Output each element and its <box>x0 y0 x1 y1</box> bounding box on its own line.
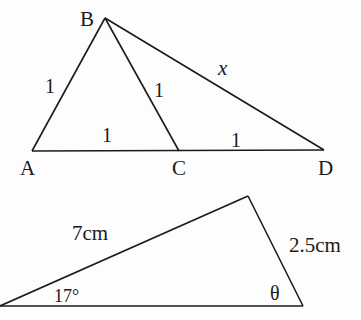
vertex-label-d: D <box>318 156 333 180</box>
diagram-canvas: B A C D 1 1 1 1 x 7cm 2.5cm 17° θ <box>0 0 361 320</box>
side-label-2.5cm: 2.5cm <box>289 233 341 257</box>
triangle-lower <box>0 196 303 306</box>
side-label-7cm: 7cm <box>72 221 108 245</box>
vertex-label-c: C <box>172 156 186 180</box>
side-label-ab: 1 <box>45 75 55 97</box>
triangle-abcd <box>32 18 324 151</box>
angle-label-theta: θ <box>270 282 280 304</box>
vertex-label-b: B <box>80 7 94 31</box>
side-label-bc: 1 <box>154 79 164 101</box>
side-label-cd: 1 <box>231 129 241 151</box>
segment-bc <box>105 18 179 151</box>
segment-bd <box>105 18 324 150</box>
angle-label-17: 17° <box>54 286 79 306</box>
segment-ab <box>32 18 105 151</box>
segment-ad <box>32 150 324 151</box>
side-label-bd: x <box>217 56 228 80</box>
side-hypotenuse <box>0 196 248 306</box>
vertex-label-a: A <box>20 156 36 180</box>
geometry-figure: B A C D 1 1 1 1 x 7cm 2.5cm 17° θ <box>0 0 361 320</box>
side-label-ac: 1 <box>102 124 112 146</box>
